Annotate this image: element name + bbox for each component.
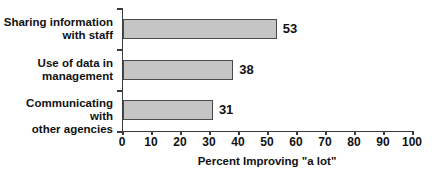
category-label: Sharing informationwith staff bbox=[0, 16, 113, 42]
y-axis-tick bbox=[117, 8, 122, 10]
bar-chart: Sharing informationwith staffUse of data… bbox=[0, 0, 438, 189]
bar-0 bbox=[123, 19, 277, 39]
bar-2 bbox=[123, 100, 213, 120]
plot-area: 533831 bbox=[122, 8, 413, 132]
category-label: Use of data inmanagement bbox=[0, 57, 113, 83]
category-label-line: Communicating with bbox=[0, 97, 113, 123]
bar-value-label: 31 bbox=[219, 102, 233, 117]
category-label-line: Sharing information bbox=[0, 16, 113, 29]
bar-value-label: 38 bbox=[239, 62, 253, 77]
x-axis-title: Percent Improving "a lot" bbox=[122, 155, 412, 167]
category-axis-labels: Sharing informationwith staffUse of data… bbox=[0, 0, 113, 189]
y-axis-tick bbox=[117, 90, 122, 92]
category-label-line: Use of data in bbox=[0, 57, 113, 70]
category-label-line: management bbox=[0, 70, 113, 83]
category-label-line: other agencies bbox=[0, 123, 113, 136]
bar-1 bbox=[123, 60, 233, 80]
category-label-line: with staff bbox=[0, 29, 113, 42]
x-tick-label: 100 bbox=[392, 135, 432, 149]
category-label: Communicating withother agencies bbox=[0, 97, 113, 136]
bar-value-label: 53 bbox=[283, 21, 297, 36]
y-axis-tick bbox=[117, 49, 122, 51]
